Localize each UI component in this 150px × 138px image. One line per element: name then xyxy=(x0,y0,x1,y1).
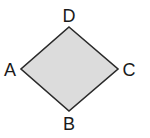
rhombus-diagram: D A C B xyxy=(0,0,150,138)
rhombus-shape xyxy=(21,27,118,111)
vertex-label-c: C xyxy=(123,60,136,80)
vertex-label-b: B xyxy=(63,114,75,134)
vertex-label-a: A xyxy=(4,60,16,80)
vertex-label-d: D xyxy=(63,6,76,26)
